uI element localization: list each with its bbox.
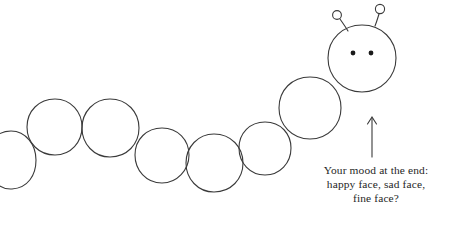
body-segment-6 (239, 122, 291, 175)
right-antenna-tip-icon (375, 4, 384, 13)
left-antenna-tip-icon (333, 11, 342, 20)
body-segment-4 (135, 128, 189, 183)
left-eye (351, 51, 356, 56)
caption: Your mood at the end: happy face, sad fa… (296, 163, 456, 205)
body-segment-7 (279, 77, 341, 139)
body-segment-2 (27, 99, 82, 155)
body-segment-3 (82, 99, 139, 157)
right-antenna-stalk (375, 14, 379, 26)
right-eye (369, 51, 374, 56)
caterpillar-head (328, 25, 396, 92)
caption-line-3: fine face? (296, 191, 456, 205)
body-segment-1 (0, 131, 36, 189)
up-arrow-icon (368, 117, 377, 157)
caption-line-1: Your mood at the end: (296, 163, 456, 177)
caption-line-2: happy face, sad face, (296, 177, 456, 191)
body-segment-5 (186, 134, 243, 192)
illustration-canvas: Your mood at the end: happy face, sad fa… (0, 0, 458, 226)
